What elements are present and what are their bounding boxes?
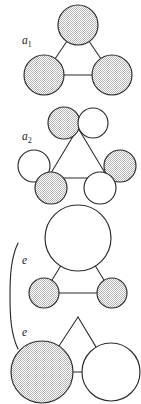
edge-apex-to-bottom-left — [59, 317, 78, 346]
node-bottom-left-shaded — [29, 278, 59, 308]
panel-a2 — [18, 107, 136, 204]
node-bottom-right-shaded — [97, 278, 127, 308]
label-panel-e1: e — [22, 254, 27, 266]
brace-group — [10, 243, 18, 349]
node-apex-open — [45, 205, 111, 271]
edge-apex-to-bottom-left — [55, 42, 67, 59]
panel-a1 — [24, 5, 132, 95]
label-panel-a2: a2 — [22, 130, 32, 145]
node-bottom-right-shaded — [92, 55, 132, 95]
panel-e2 — [11, 317, 140, 403]
node-bottom-left-shaded — [11, 341, 73, 403]
label-panel-a1: a1 — [22, 34, 32, 49]
node-bottom-left-shaded — [24, 55, 64, 95]
orbital-symmetry-diagram: a1a2ee — [0, 0, 141, 404]
lobe-bottom-right-open — [84, 172, 116, 204]
panel-e1 — [29, 205, 127, 308]
edge-apex-to-bottom-right — [89, 42, 101, 59]
node-bottom-right-open — [82, 343, 140, 401]
lobe-apex-shaded — [48, 107, 80, 139]
degenerate-pair-brace — [10, 243, 18, 349]
figure-root: a1a2ee — [0, 0, 141, 404]
node-apex-shaded — [58, 5, 98, 45]
lobe-apex-open — [78, 108, 108, 138]
label-panel-e2: e — [22, 326, 27, 338]
panels-layer — [11, 5, 140, 403]
edge-apex-to-bottom-right — [95, 266, 104, 280]
edge-apex-to-bottom-left — [52, 266, 61, 280]
edge-apex-to-bottom-right — [78, 317, 96, 347]
lobe-bottom-left-shaded — [35, 172, 67, 204]
